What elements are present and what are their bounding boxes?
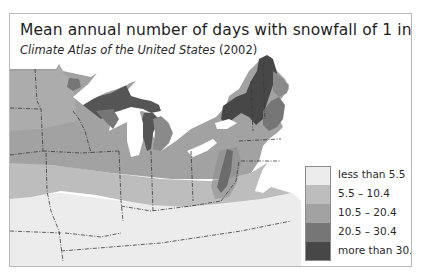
legend-item: more than 30.4 [305,242,411,261]
legend-label: more than 30.4 [338,244,412,256]
source-title: Climate Atlas of the United States [20,43,215,57]
map-region-maine-coast [273,71,289,97]
legend-item: 20.5 – 30.4 [305,223,411,242]
legend-swatch [305,166,331,185]
legend-swatch [305,242,331,261]
source-year: (2002) [219,43,257,57]
legend: less than 5.5 5.5 – 10.4 10.5 – 20.4 20.… [302,157,412,265]
map-title: Mean annual number of days with snowfall… [20,21,412,39]
legend-label: 10.5 – 20.4 [338,206,397,218]
map-subtitle: Climate Atlas of the United States (2002… [20,43,257,57]
legend-swatch [305,185,331,204]
legend-item: 10.5 – 20.4 [305,204,411,223]
legend-label: 5.5 – 10.4 [338,187,390,199]
figure-frame: Mean annual number of days with snowfall… [9,13,412,267]
legend-label: 20.5 – 30.4 [338,225,397,237]
legend-label: less than 5.5 [338,168,406,180]
legend-swatch [305,223,331,242]
legend-item: 5.5 – 10.4 [305,185,411,204]
legend-swatch [305,204,331,223]
legend-item: less than 5.5 [305,166,411,185]
